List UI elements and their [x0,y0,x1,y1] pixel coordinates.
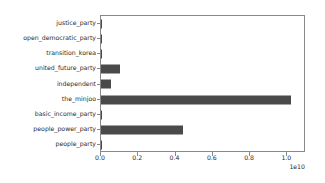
x-tick-label-0-8: 0.8 [234,155,264,161]
bar-transition-korea [101,50,102,59]
x-tick-mark [137,152,138,156]
bar-row [101,16,304,31]
x-tick-mark [100,152,101,156]
bar-people-party [101,141,102,150]
bar-the-minjoo [101,95,291,104]
bar-open-democratic-party [101,34,102,43]
bar-row [101,46,304,61]
y-tick-label-people-power-party: people_power_party [0,126,96,132]
plot-area [100,15,305,152]
bar-row [101,138,304,153]
bar-row [101,92,304,107]
bar-independent [101,80,111,89]
y-tick-label-people-party: people_party [0,141,96,147]
bar-justice-party [101,19,102,28]
bar-row [101,62,304,77]
x-axis-offset-label: 1e10 [289,164,305,170]
x-tick-label-0-2: 0.2 [122,155,152,161]
x-tick-mark [249,152,250,156]
y-tick-label-independent: independent [0,80,96,86]
bar-basic-income-party [101,110,102,119]
x-tick-label-1-0: 1.0 [271,155,301,161]
y-tick-label-the-minjoo: the_minjoo [0,96,96,102]
bar-row [101,123,304,138]
bar-row [101,77,304,92]
bar-row [101,31,304,46]
y-tick-label-united-future-party: united_future_party [0,65,96,71]
x-tick-mark [175,152,176,156]
y-tick-label-justice-party: justice_party [0,20,96,26]
x-tick-mark [212,152,213,156]
matplotlib-figure: justice_partyopen_democratic_partytransi… [0,0,325,183]
bar-united-future-party [101,65,120,74]
x-tick-label-0-6: 0.6 [197,155,227,161]
y-tick-label-transition-korea: transition_korea [0,50,96,56]
x-tick-label-0-0: 0.0 [85,155,115,161]
x-tick-label-0-4: 0.4 [160,155,190,161]
y-tick-label-open-democratic-party: open_democratic_party [0,35,96,41]
x-tick-mark [286,152,287,156]
y-tick-label-basic-income-party: basic_income_party [0,111,96,117]
bar-row [101,107,304,122]
bar-people-power-party [101,126,183,135]
